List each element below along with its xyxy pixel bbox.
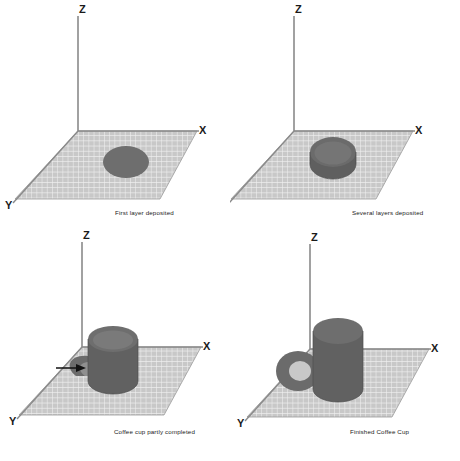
- z-axis-label: Z: [295, 3, 302, 15]
- panel-caption: First layer deposited: [115, 209, 174, 217]
- short-cylinder: [310, 137, 356, 179]
- x-axis-label: X: [415, 124, 423, 136]
- finished-coffee-cup: [313, 318, 363, 402]
- panel-first-layer: Z X Y First layer deposited: [0, 0, 230, 230]
- z-axis-label: Z: [311, 231, 318, 243]
- panel-finished-graphic: Z X Y: [230, 231, 460, 461]
- y-axis-label: Y: [9, 415, 17, 427]
- panel-partly-completed: Z X Y Support Structure (To be removed: [0, 231, 230, 461]
- y-axis-label: Y: [237, 417, 245, 429]
- z-axis-label: Z: [79, 3, 86, 15]
- panel-caption: Finished Coffee Cup: [350, 428, 409, 436]
- x-axis-label: X: [203, 340, 211, 352]
- panel-several-layers: Z X Y Several layers deposited: [230, 0, 460, 230]
- cylinder-cavity: [315, 142, 352, 165]
- y-axis-label: Y: [5, 199, 13, 211]
- cup-closed-top: [313, 318, 363, 344]
- open-cup: [88, 326, 138, 394]
- panel-caption: Coffee cup partly completed: [114, 428, 195, 436]
- panel-partly-completed-graphic: Z X Y: [0, 231, 230, 461]
- panel-several-layers-graphic: Z X Y: [230, 0, 460, 230]
- panel-caption: Several layers deposited: [352, 209, 423, 217]
- figure-canvas: Z X Y First layer deposited Z X Y: [0, 0, 460, 461]
- z-axis-label: Z: [83, 231, 90, 241]
- panel-first-layer-graphic: Z X Y: [0, 0, 230, 230]
- x-axis-label: X: [431, 342, 439, 354]
- x-axis-label: X: [199, 124, 207, 136]
- panel-finished: Z X Y Finished Coffee Cup: [230, 231, 460, 461]
- cup-cavity: [93, 331, 133, 350]
- deposited-disc: [103, 146, 149, 178]
